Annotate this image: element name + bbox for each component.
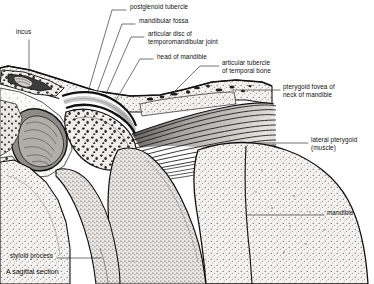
label-head-of-mandible: head of mandible [157,53,207,61]
label-articular-tubercle: articular tubercle of temporal bone [222,59,271,74]
anatomical-figure: incus postglenoid tubercle mandibular fo… [0,0,374,284]
label-postglenoid-tubercle: postglenoid tubercle [130,3,188,11]
label-incus: incus [16,28,31,36]
label-pterygoid-fovea: pterygoid fovea of neck of mandible [283,83,335,98]
label-mandible: mandible [327,209,353,217]
label-styloid-process: styloid process [10,252,53,260]
label-articular-disc: articular disc of temporomandibular join… [148,30,218,45]
artist-signature: s.r. [130,258,136,263]
label-mandibular-fossa: mandibular fossa [139,17,188,25]
label-lateral-pterygoid: lateral pterygoid (muscle) [311,136,357,151]
figure-caption: A sagittal section [6,268,59,276]
